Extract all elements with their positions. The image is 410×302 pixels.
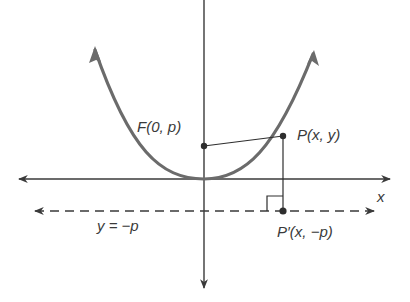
directrix-label: y = −p <box>96 217 139 234</box>
x-axis-label: x <box>376 188 385 205</box>
point-P <box>280 133 286 139</box>
focus-label: F(0, p) <box>137 118 181 135</box>
point-P-prime <box>279 207 286 214</box>
parabola-left-arrow-icon <box>89 46 101 63</box>
point-P-prime-label: P′(x, −p) <box>277 223 333 240</box>
parabola-focus-directrix-diagram: F(0, p) P(x, y) P′(x, −p) y = −p x <box>0 0 410 302</box>
focus-point <box>201 143 207 149</box>
segment-FP <box>204 136 283 146</box>
point-P-label: P(x, y) <box>297 126 340 143</box>
